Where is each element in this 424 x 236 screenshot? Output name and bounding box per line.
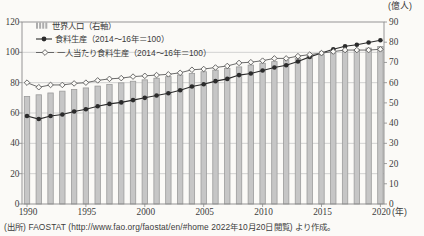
axis-tick-label: 90	[389, 17, 399, 27]
data-point	[378, 38, 383, 43]
data-point	[154, 93, 159, 98]
legend-bar-swatch	[45, 22, 47, 28]
bar	[166, 77, 171, 204]
data-point	[72, 109, 77, 114]
bar	[24, 96, 29, 204]
right-axis-unit-label: (億人)	[388, 0, 412, 11]
axis-tick-label: 2010	[254, 207, 273, 217]
bar	[177, 75, 182, 204]
data-point	[118, 75, 124, 81]
bar	[225, 69, 230, 204]
bar	[213, 70, 218, 204]
bar	[36, 95, 41, 204]
data-point	[201, 82, 206, 87]
axis-tick-label: 50	[389, 98, 399, 108]
axis-tick-label: 40	[389, 118, 399, 128]
data-point	[142, 73, 148, 79]
bar	[189, 73, 194, 204]
data-point	[260, 68, 265, 73]
axis-tick-label: 2000	[137, 207, 156, 217]
data-point	[213, 79, 218, 84]
bar	[83, 88, 88, 204]
bar	[307, 56, 312, 204]
data-point	[60, 112, 65, 117]
axis-tick-label: 20	[10, 169, 20, 179]
bar	[260, 63, 265, 204]
bar	[95, 86, 100, 204]
data-point	[24, 80, 30, 86]
axis-tick-label: 100	[6, 47, 20, 57]
bar	[71, 90, 76, 204]
data-point	[355, 42, 360, 47]
source-note: (出所) FAOSTAT (http://www.fao.org/faostat…	[4, 220, 422, 232]
data-point	[272, 65, 277, 70]
axis-tick-label: 10	[389, 179, 399, 189]
bar	[236, 67, 241, 204]
data-point	[84, 107, 89, 112]
data-point	[130, 74, 136, 80]
data-point	[224, 63, 230, 69]
legend-bar-swatch	[39, 22, 41, 28]
x-axis-unit-label: (年)	[392, 206, 407, 217]
legend-circle-marker	[42, 37, 47, 42]
data-point	[225, 77, 230, 82]
bar	[272, 62, 277, 204]
data-point	[107, 102, 112, 107]
bar	[378, 46, 383, 204]
axis-tick-label: 20	[389, 159, 399, 169]
data-point	[107, 76, 113, 82]
data-point	[166, 91, 171, 96]
axis-tick-label: 30	[389, 138, 399, 148]
axis-tick-label: 60	[10, 108, 20, 118]
axis-tick-label: 1995	[78, 207, 97, 217]
bar	[283, 60, 288, 204]
axis-tick-label: 2015	[313, 207, 332, 217]
data-point	[154, 72, 160, 78]
data-point	[143, 96, 148, 101]
legend-bar-swatch	[36, 22, 38, 28]
data-point	[36, 84, 42, 90]
data-point	[366, 40, 371, 45]
data-point	[131, 98, 136, 103]
axis-tick-label: 60	[389, 78, 399, 88]
legend-label: 世界人口（右軸）	[52, 21, 116, 31]
data-point	[95, 104, 100, 109]
bar	[331, 53, 336, 204]
data-point	[249, 71, 254, 76]
axis-tick-label: 40	[10, 138, 20, 148]
bar	[48, 93, 53, 204]
axis-tick-label: 80	[10, 78, 20, 88]
legend-label: 一人当たり食料生産（2014～16年＝100）	[57, 48, 211, 58]
data-point	[236, 60, 242, 66]
bar	[60, 91, 65, 204]
legend-diamond-marker	[42, 50, 48, 56]
axis-tick-label: 2005	[195, 207, 214, 217]
bar	[201, 72, 206, 204]
legend: 世界人口（右軸）食料生産（2014～16年＝100）一人当たり食料生産（2014…	[36, 21, 211, 58]
bar	[342, 51, 347, 204]
axis-tick-label: 1990	[19, 207, 38, 217]
bar	[295, 58, 300, 204]
legend-bar-swatch	[42, 22, 44, 28]
data-point	[296, 59, 301, 64]
data-point	[260, 58, 266, 64]
bar	[354, 50, 359, 204]
bar	[366, 48, 371, 204]
data-point	[71, 81, 77, 87]
data-point	[119, 100, 124, 105]
bar	[248, 65, 253, 204]
data-point	[248, 59, 254, 65]
axis-tick-label: 80	[389, 37, 399, 47]
data-point	[201, 66, 207, 72]
axis-tick-label: 2020	[372, 207, 391, 217]
axis-tick-label: 70	[389, 57, 399, 67]
axis-labels: 0204060801001200102030405060708090199019…	[6, 0, 412, 217]
data-point	[178, 88, 183, 93]
data-point	[272, 56, 278, 62]
data-point	[237, 73, 242, 78]
data-point	[284, 63, 289, 68]
axis-tick-label: 120	[6, 17, 20, 27]
data-point	[190, 84, 195, 89]
data-point	[213, 65, 219, 71]
data-point	[36, 117, 41, 122]
